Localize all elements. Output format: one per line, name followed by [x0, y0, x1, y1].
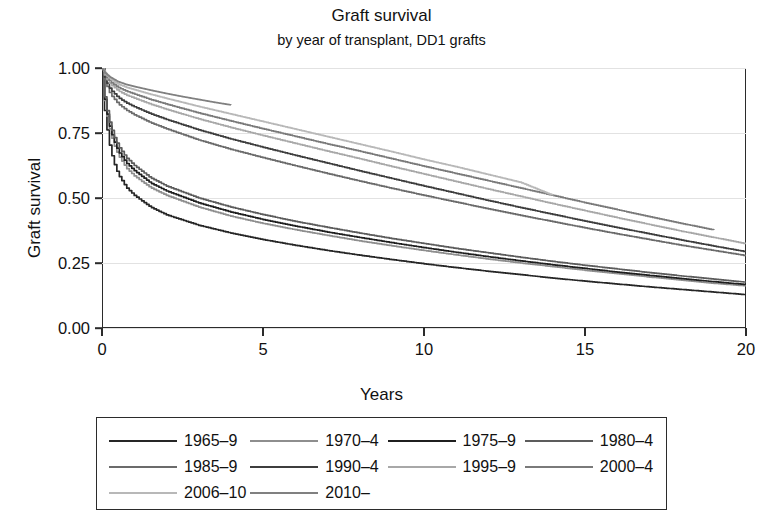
y-tick-mark — [95, 197, 102, 199]
legend-line-swatch — [109, 440, 177, 442]
legend-item-1990-4[interactable]: 1990–4 — [246, 458, 383, 476]
legend-label: 1985–9 — [184, 458, 237, 476]
legend-label: 1965–9 — [184, 432, 237, 450]
series-line-1965-9 — [102, 68, 746, 295]
plot-area — [102, 68, 746, 328]
legend-line-swatch — [109, 492, 177, 494]
x-axis-title: Years — [0, 385, 763, 405]
legend-grid: 1965–91970–41975–91980–41985–91990–41995… — [97, 418, 666, 509]
x-tick-mark — [101, 328, 103, 336]
legend-label: 1980–4 — [600, 432, 653, 450]
x-tick-mark — [584, 328, 586, 336]
legend-item-1965-9[interactable]: 1965–9 — [105, 432, 246, 450]
legend-line-swatch — [388, 466, 456, 468]
x-tick-label: 5 — [258, 340, 267, 359]
x-tick-label: 15 — [576, 340, 594, 359]
y-tick-mark — [95, 67, 102, 69]
legend-label: 2000–4 — [600, 458, 653, 476]
y-tick-mark — [95, 262, 102, 264]
legend-label: 1975–9 — [463, 432, 516, 450]
legend-item-1970-4[interactable]: 1970–4 — [246, 432, 383, 450]
legend-label: 2010– — [325, 484, 370, 502]
x-tick-mark — [262, 328, 264, 336]
legend-line-swatch — [525, 440, 593, 442]
legend-item-1980-4[interactable]: 1980–4 — [521, 432, 658, 450]
chart-title: Graft survival — [0, 6, 763, 26]
legend-line-swatch — [250, 492, 318, 494]
x-tick-label: 0 — [97, 340, 106, 359]
chart-subtitle: by year of transplant, DD1 grafts — [0, 32, 763, 48]
legend-label: 1970–4 — [325, 432, 378, 450]
legend-item-2000-4[interactable]: 2000–4 — [521, 458, 658, 476]
series-line-1995-9 — [102, 68, 746, 244]
legend: 1965–91970–41975–91980–41985–91990–41995… — [96, 417, 667, 510]
legend-item-2010-[interactable]: 2010– — [246, 484, 383, 502]
legend-label: 2006–10 — [184, 484, 246, 502]
legend-line-swatch — [250, 440, 318, 442]
legend-item-1995-9[interactable]: 1995–9 — [384, 458, 521, 476]
y-axis: Graft survival 0.000.250.500.751.00 — [0, 0, 102, 528]
legend-line-swatch — [250, 466, 318, 468]
graft-survival-figure: Graft survival by year of transplant, DD… — [0, 0, 763, 528]
y-axis-title: Graft survival — [25, 78, 45, 338]
x-tick-mark — [423, 328, 425, 336]
y-tick-mark — [95, 132, 102, 134]
legend-item-1985-9[interactable]: 1985–9 — [105, 458, 246, 476]
legend-line-swatch — [388, 440, 456, 442]
series-line-1975-9 — [102, 68, 746, 285]
series-line-2006-10 — [102, 68, 553, 195]
series-line-1985-9 — [102, 68, 746, 256]
x-tick-mark — [745, 328, 747, 336]
x-tick-label: 20 — [737, 340, 755, 359]
y-tick-label: 1.00 — [58, 59, 90, 78]
legend-item-1975-9[interactable]: 1975–9 — [384, 432, 521, 450]
legend-line-swatch — [109, 466, 177, 468]
legend-line-swatch — [525, 466, 593, 468]
series-line-1970-4 — [102, 68, 746, 286]
series-lines — [102, 68, 746, 328]
legend-item-2006-10[interactable]: 2006–10 — [105, 484, 246, 502]
legend-label: 1995–9 — [463, 458, 516, 476]
x-tick-label: 10 — [415, 340, 433, 359]
y-tick-label: 0.50 — [58, 189, 90, 208]
legend-label: 1990–4 — [325, 458, 378, 476]
y-tick-label: 0.00 — [58, 319, 90, 338]
y-tick-label: 0.25 — [58, 254, 90, 273]
y-tick-label: 0.75 — [58, 124, 90, 143]
